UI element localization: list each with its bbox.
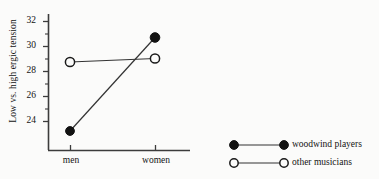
y-tick-label-26: 26	[14, 90, 36, 100]
data-point-other-musicians-men	[65, 57, 74, 66]
legend-marker-filled-circle	[228, 136, 290, 154]
x-tick-label-women: women	[126, 155, 186, 165]
chart-figure: Low vs. high ergic tension 32 30 28 26 2…	[0, 0, 379, 179]
series-line-woodwind-players	[70, 38, 155, 132]
legend-marker-open-circle	[228, 154, 290, 172]
legend-row-woodwind-players: woodwind players	[228, 136, 379, 154]
legend-row-other-musicians: other musicians	[228, 154, 379, 172]
series-line-other-musicians	[70, 59, 155, 63]
y-tick-label-30: 30	[14, 40, 36, 50]
y-tick-label-28: 28	[14, 65, 36, 75]
legend-label-other-musicians: other musicians	[292, 157, 352, 167]
data-point-woodwind-players-men	[66, 127, 75, 136]
data-point-other-musicians-women	[150, 54, 159, 63]
chart-legend: woodwind players other musicians	[228, 134, 379, 176]
plot-area: Low vs. high ergic tension 32 30 28 26 2…	[0, 0, 210, 179]
y-tick-label-24: 24	[14, 115, 36, 125]
y-tick-label-32: 32	[14, 15, 36, 25]
legend-label-woodwind-players: woodwind players	[292, 139, 362, 149]
x-tick-label-men: men	[41, 155, 101, 165]
data-point-woodwind-players-women	[150, 33, 160, 43]
